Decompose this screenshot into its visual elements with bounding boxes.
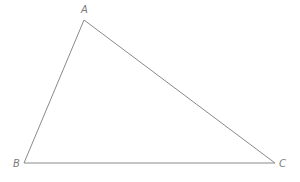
vertex-label-c: C: [279, 158, 286, 169]
edge-ab: [24, 20, 84, 163]
edge-ca: [84, 20, 275, 163]
vertex-label-a: A: [80, 4, 88, 15]
vertex-label-b: B: [13, 158, 20, 169]
triangle-diagram: A B C: [0, 0, 300, 182]
